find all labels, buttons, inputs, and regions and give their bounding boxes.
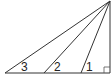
geometry-diagram: 3 2 1 — [0, 0, 112, 82]
angle-label-1: 1 — [86, 60, 93, 74]
angle-label-3: 3 — [21, 60, 28, 74]
angle-label-2: 2 — [54, 60, 61, 74]
triangle-figure: 3 2 1 — [0, 0, 112, 82]
right-angle-marker — [104, 67, 110, 73]
